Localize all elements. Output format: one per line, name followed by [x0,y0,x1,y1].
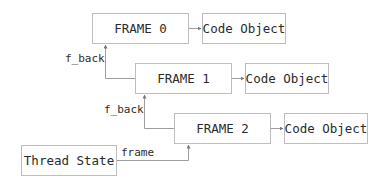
call-stack-diagram: FRAME 0 Code Object FRAME 1 Code Object … [0,0,386,184]
f-back-2-arrow [145,95,175,129]
frame-1-box: FRAME 1 [135,63,232,94]
f-back-2-label: f_back [104,103,144,116]
thread-state-box: Thread State [21,145,117,176]
frame-pointer-label: frame [121,146,154,159]
code-object-0-box: Code Object [202,13,286,44]
f-back-1-arrow [106,45,136,79]
code-object-2-box: Code Object [284,113,368,144]
f-back-1-label: f_back [65,52,105,65]
frame-2-box: FRAME 2 [174,113,271,144]
frame-0-box: FRAME 0 [92,13,189,44]
code-object-1-box: Code Object [245,63,329,94]
